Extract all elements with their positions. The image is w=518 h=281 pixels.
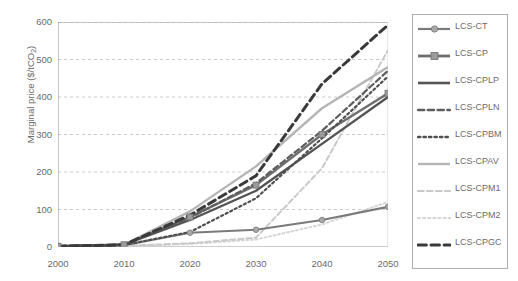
data-point-marker [58,243,61,247]
legend-item-label: LCS-CPLN [451,102,500,113]
y-tick-label: 0 [10,242,52,252]
legend-item-lcs-ct[interactable]: LCS-CT [417,21,503,48]
data-point-marker [385,90,388,96]
legend-item-lcs-cp[interactable]: LCS-CP [417,48,503,75]
series-line-lcs-cpbm [58,76,388,246]
chart-figure: Marginal price ($/tCO2) 0100200300400500… [0,0,518,281]
x-tick-label: 2010 [101,258,147,269]
chart-legend: LCS-CTLCS-CPLCS-CPLPLCS-CPLNLCS-CPBMLCS-… [412,14,508,269]
legend-item-label: LCS-CPM2 [451,210,501,221]
data-point-marker [187,214,193,220]
legend-item-lcs-cpln[interactable]: LCS-CPLN [417,102,503,129]
legend-swatch-icon [417,49,451,63]
legend-item-lcs-cpm1[interactable]: LCS-CPM1 [417,183,503,210]
legend-swatch-icon [417,238,451,252]
chart-canvas [58,22,388,247]
legend-item-label: LCS-CPLP [451,75,499,86]
data-point-marker [253,227,259,233]
y-axis-title-tail: ) [25,46,36,49]
legend-swatch-icon [417,157,451,171]
legend-item-lcs-cpgc[interactable]: LCS-CPGC [417,237,503,264]
legend-swatch-icon [417,211,451,225]
data-point-marker [319,217,325,223]
legend-swatch-icon [417,130,451,144]
legend-item-label: LCS-CPM1 [451,183,501,194]
x-tick-label: 2000 [35,258,81,269]
x-tick-label: 2050 [365,258,411,269]
legend-swatch-icon [417,184,451,198]
legend-item-lcs-cpav[interactable]: LCS-CPAV [417,156,503,183]
y-tick-label: 600 [10,17,52,27]
data-point-marker [385,204,388,210]
y-tick-label: 400 [10,92,52,102]
x-tick-label: 2030 [233,258,279,269]
legend-item-label: LCS-CPAV [451,156,499,167]
y-axis-title-subscript: 2 [30,49,37,53]
data-point-marker [253,182,259,188]
legend-swatch-icon [417,22,451,36]
legend-item-lcs-cpbm[interactable]: LCS-CPBM [417,129,503,156]
legend-item-lcs-cpm2[interactable]: LCS-CPM2 [417,210,503,237]
series-line-lcs-cpgc [58,25,388,246]
legend-item-label: LCS-CP [451,48,488,59]
x-tick-label: 2040 [299,258,345,269]
y-tick-label: 500 [10,55,52,65]
legend-swatch-icon [417,76,451,90]
legend-item-label: LCS-CT [451,21,488,32]
legend-swatch-icon [417,103,451,117]
legend-item-lcs-cplp[interactable]: LCS-CPLP [417,75,503,102]
legend-item-label: LCS-CPBM [451,129,502,140]
data-point-marker [121,242,127,247]
y-tick-label: 200 [10,167,52,177]
data-point-marker [187,230,193,236]
y-tick-label: 100 [10,205,52,215]
legend-item-label: LCS-CPGC [451,237,502,248]
y-tick-label: 300 [10,130,52,140]
x-tick-label: 2020 [167,258,213,269]
plot-area [58,22,388,247]
data-point-marker [319,132,325,138]
